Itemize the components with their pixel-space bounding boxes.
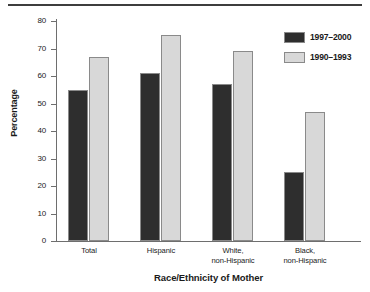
bar[interactable] bbox=[68, 90, 88, 241]
legend: 1997–2000 1990–1993 bbox=[284, 29, 368, 69]
legend-label-series-1: 1990–1993 bbox=[310, 52, 351, 62]
category-label-line: Black, bbox=[257, 246, 353, 256]
y-axis-tick bbox=[51, 104, 56, 105]
bar-chart-figure: 80706050403020100 Percentage Race/Ethnic… bbox=[0, 0, 370, 292]
top-divider-rule bbox=[8, 4, 362, 6]
y-axis-tick bbox=[51, 159, 56, 160]
y-axis-tick bbox=[51, 49, 56, 50]
bar[interactable] bbox=[140, 73, 160, 241]
y-axis-tick-label: 30 bbox=[6, 155, 46, 163]
y-axis-title: Percentage bbox=[9, 73, 19, 153]
y-axis-tick-label: 20 bbox=[6, 182, 46, 190]
y-axis-tick bbox=[51, 186, 56, 187]
y-axis-tick-label: 10 bbox=[6, 210, 46, 218]
legend-item[interactable]: 1990–1993 bbox=[284, 49, 368, 65]
bar[interactable] bbox=[89, 57, 109, 241]
y-axis-tick bbox=[51, 76, 56, 77]
bar[interactable] bbox=[233, 51, 253, 241]
x-axis-category-label: Black,non-Hispanic bbox=[257, 246, 353, 265]
x-axis-title: Race/Ethnicity of Mother bbox=[56, 272, 361, 283]
y-axis-tick bbox=[51, 241, 56, 242]
y-axis-tick bbox=[51, 21, 56, 22]
bar[interactable] bbox=[212, 84, 232, 241]
y-axis-tick-label: 0 bbox=[6, 237, 46, 245]
legend-swatch-series-1 bbox=[284, 52, 305, 63]
y-axis-tick-label: 80 bbox=[6, 17, 46, 25]
y-axis-line bbox=[56, 19, 57, 242]
legend-label-series-0: 1997–2000 bbox=[310, 32, 351, 42]
bar[interactable] bbox=[161, 35, 181, 241]
bar[interactable] bbox=[305, 112, 325, 241]
y-axis-tick-label: 70 bbox=[6, 45, 46, 53]
bar[interactable] bbox=[284, 172, 304, 241]
legend-swatch-series-0 bbox=[284, 32, 305, 43]
x-axis-line bbox=[56, 241, 361, 242]
y-axis-tick bbox=[51, 214, 56, 215]
category-label-line: non-Hispanic bbox=[257, 256, 353, 266]
legend-item[interactable]: 1997–2000 bbox=[284, 29, 368, 45]
y-axis-tick bbox=[51, 131, 56, 132]
